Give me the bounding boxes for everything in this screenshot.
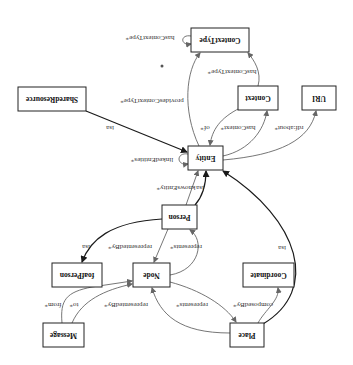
node-node[interactable]: Node [133, 263, 170, 287]
label-rdf-about: rdf:about* [274, 124, 304, 132]
label-provides-context-type: providesContextType* [120, 97, 184, 105]
node-uri[interactable]: URI [302, 86, 336, 110]
node-context[interactable]: Context [238, 86, 278, 110]
node-foaf-person[interactable]: foafPerson [52, 263, 102, 287]
label-linked-entities: linkedEntities* [130, 156, 173, 164]
label-place-represented-by: representedBy* [104, 301, 148, 309]
label-node-represents-place: represents* [176, 301, 208, 309]
label-person-isa: isa [195, 184, 204, 192]
edge-foaf-isa [82, 219, 162, 262]
stray-dot [161, 65, 164, 68]
ontology-diagram: hasContextType* hasContextType* provides… [0, 0, 353, 365]
node-label: ContextType [199, 36, 241, 45]
label-has-context-type-self: hasContextType* [125, 34, 174, 42]
label-shared-isa: isa [105, 124, 114, 132]
edge-linked-entities-self [179, 154, 188, 164]
node-label: Context [245, 94, 271, 103]
label-person-represented-by: representedBy* [108, 243, 152, 251]
node-label: Person [168, 213, 191, 222]
node-place[interactable]: Place [230, 323, 264, 347]
node-coordinate[interactable]: Coordinate [243, 263, 294, 287]
node-context-type[interactable]: ContextType [191, 28, 249, 52]
label-node-represents-person: represents* [170, 243, 202, 251]
edge-person-represented-by [154, 229, 168, 262]
node-label: Message [49, 331, 77, 340]
label-place-isa: isa [277, 244, 286, 252]
node-label: SharedResource [25, 95, 78, 104]
label-has-context: hasContext* [220, 124, 255, 132]
label-to: to* [69, 301, 78, 309]
edge-shared-resource-isa [86, 111, 187, 152]
edge-rdf-about [223, 111, 316, 160]
node-label: Node [142, 271, 159, 280]
node-entity[interactable]: Entity [188, 146, 223, 170]
label-composed-by: composedBy* [232, 301, 273, 309]
edge-provides-context-type [188, 53, 200, 146]
node-label: Place [238, 331, 256, 340]
node-label: URI [312, 94, 326, 103]
edge-has-context [223, 111, 267, 156]
label-of: of* [200, 124, 210, 132]
edge-node-represents-person [170, 230, 198, 275]
edge-place-represented-by [152, 288, 230, 333]
node-shared-resource[interactable]: SharedResource [18, 87, 86, 111]
node-label: Entity [195, 154, 215, 163]
node-label: Coordinate [250, 271, 287, 280]
node-label: foafPerson [59, 271, 94, 280]
node-person[interactable]: Person [162, 205, 197, 229]
label-from: from* [44, 301, 62, 309]
node-message[interactable]: Message [43, 323, 84, 347]
label-foaf-isa: isa [81, 243, 90, 251]
edge-has-context-type-self [183, 36, 191, 44]
label-has-context-type: hasContextType* [207, 68, 256, 76]
label-knows-entity: knowsEntity* [156, 184, 195, 192]
